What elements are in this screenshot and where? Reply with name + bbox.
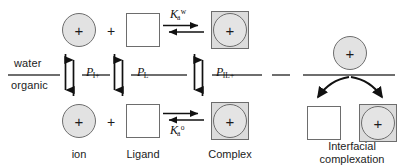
partition-coefficient-ligand: PL [137, 66, 148, 80]
plus-operator-organic: + [107, 115, 115, 129]
caption-ligand: Ligand [117, 148, 169, 161]
panel-separator-dash [272, 74, 290, 76]
partition-coefficient-ion: PI+ [86, 66, 100, 80]
interface-line-segment-1 [8, 74, 60, 76]
caption-interfacial-complexation-line2: complexation [305, 153, 399, 166]
phase-label-water: water [14, 57, 41, 69]
caption-complex: Complex [202, 148, 258, 161]
equilibrium-arrows-aqueous [163, 22, 205, 36]
p-subscript-ligand: L [144, 71, 149, 80]
ion-species-aqueous [62, 13, 96, 47]
k-subscript-organic: a [177, 129, 180, 138]
k-superscript-organic: o [181, 123, 185, 132]
p-subscript-complex: IL+ [223, 71, 234, 80]
complex-species-organic: + [211, 102, 249, 140]
ligand-species-organic [126, 104, 160, 138]
k-superscript-aqueous: w [181, 7, 186, 16]
partition-coefficient-complex: PIL+ [216, 66, 234, 80]
p-subscript-ion: I+ [93, 71, 100, 80]
complex-species-aqueous: + [211, 11, 249, 49]
transfer-arrows-complex [190, 54, 210, 96]
equilibrium-constant-aqueous: Kaw [170, 8, 186, 22]
plus-operator-aqueous: + [107, 24, 115, 38]
phase-label-organic: organic [11, 79, 48, 91]
complex-charge-aqueous: + [211, 11, 249, 49]
figure-canvas: water organic + Kaw + [0, 0, 402, 167]
k-subscript-aqueous: a [177, 13, 180, 22]
complex-charge-organic: + [211, 102, 249, 140]
caption-interfacial-complexation-line1: Interfacial [305, 140, 399, 153]
ion-species-interfacial [333, 36, 367, 70]
complex-charge-interfacial: + [359, 104, 397, 142]
ligand-species-interfacial [307, 106, 341, 140]
ligand-species-aqueous [126, 13, 160, 47]
equilibrium-constant-organic: Kao [170, 124, 185, 138]
transfer-arrows-ligand [110, 54, 130, 96]
transfer-arrows-ion [61, 54, 81, 96]
equilibrium-arrows-organic [163, 110, 205, 124]
complex-species-interfacial: + [359, 104, 397, 142]
caption-ion: ion [58, 148, 100, 161]
ion-species-organic [62, 104, 96, 138]
